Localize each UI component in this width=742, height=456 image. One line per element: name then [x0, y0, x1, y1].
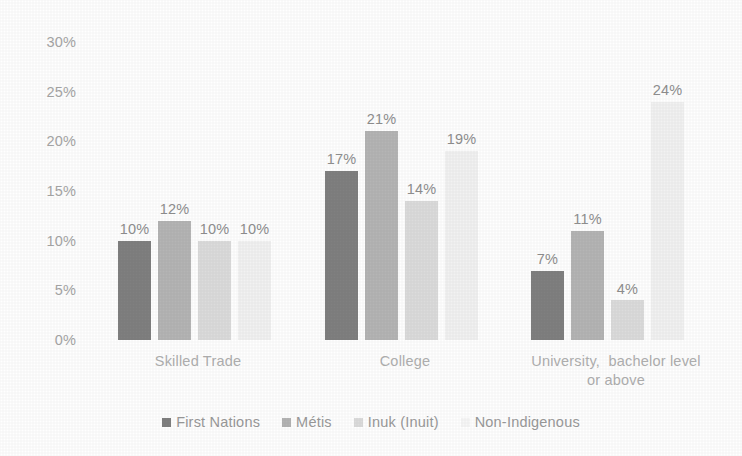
- bar-group-college: 17% 21% 14% 19%: [325, 42, 485, 340]
- legend-swatch-icon-metis: [282, 418, 291, 427]
- bar-rect-first-nations: [325, 171, 358, 340]
- bar-rect-metis: [365, 131, 398, 340]
- bar-rect-first-nations: [118, 241, 151, 340]
- category-label-university-line1: University, bachelor level: [531, 353, 701, 369]
- bar-college-metis[interactable]: 21%: [365, 42, 398, 340]
- y-tick-label-25: 25%: [46, 84, 76, 100]
- bar-label-college-first-nations: 17%: [327, 151, 357, 167]
- bar-skilled-trade-first-nations[interactable]: 10%: [118, 42, 151, 340]
- bar-skilled-trade-metis[interactable]: 12%: [158, 42, 191, 340]
- bar-label-skilled-trade-inuk: 10%: [200, 221, 230, 237]
- bar-label-college-non-indigenous: 19%: [447, 131, 477, 147]
- bar-university-non-indigenous[interactable]: 24%: [651, 42, 684, 340]
- y-tick-label-10: 10%: [46, 233, 76, 249]
- bar-university-metis[interactable]: 11%: [571, 42, 604, 340]
- category-label-university-line2: or above: [587, 372, 645, 388]
- grouped-bar-chart: 30% 25% 20% 15% 10% 5% 0% 10% 12% 10%: [0, 0, 742, 456]
- chart-legend: First Nations Métis Inuk (Inuit) Non-Ind…: [0, 414, 742, 430]
- bar-university-first-nations[interactable]: 7%: [531, 42, 564, 340]
- legend-swatch-icon-first-nations: [162, 418, 171, 427]
- bar-rect-inuk: [611, 300, 644, 340]
- legend-swatch-icon-inuk: [354, 418, 363, 427]
- bar-college-non-indigenous[interactable]: 19%: [445, 42, 478, 340]
- bar-label-skilled-trade-first-nations: 10%: [120, 221, 150, 237]
- legend-label-non-indigenous: Non-Indigenous: [475, 414, 580, 430]
- y-tick-label-5: 5%: [55, 282, 76, 298]
- category-label-university: University, bachelor levelor above: [501, 352, 731, 390]
- bar-rect-metis: [158, 221, 191, 340]
- bar-rect-non-indigenous: [238, 241, 271, 340]
- legend-item-non-indigenous[interactable]: Non-Indigenous: [461, 414, 580, 430]
- bar-label-college-metis: 21%: [367, 111, 397, 127]
- legend-item-metis[interactable]: Métis: [282, 414, 332, 430]
- bar-rect-non-indigenous: [651, 102, 684, 340]
- legend-label-first-nations: First Nations: [176, 414, 260, 430]
- bar-label-skilled-trade-metis: 12%: [160, 201, 190, 217]
- bar-label-university-non-indigenous: 24%: [653, 82, 683, 98]
- bar-label-university-first-nations: 7%: [537, 251, 558, 267]
- bar-university-inuk[interactable]: 4%: [611, 42, 644, 340]
- bar-rect-metis: [571, 231, 604, 340]
- bar-label-university-inuk: 4%: [617, 281, 638, 297]
- bar-rect-non-indigenous: [445, 151, 478, 340]
- bar-label-skilled-trade-non-indigenous: 10%: [240, 221, 270, 237]
- category-label-skilled-trade: Skilled Trade: [118, 352, 278, 371]
- bar-group-university: 7% 11% 4% 24%: [531, 42, 691, 340]
- bar-group-skilled-trade: 10% 12% 10% 10%: [118, 42, 278, 340]
- y-tick-label-30: 30%: [46, 34, 76, 50]
- plot-area: 10% 12% 10% 10%: [88, 42, 718, 340]
- category-label-college: College: [325, 352, 485, 371]
- legend-item-inuk[interactable]: Inuk (Inuit): [354, 414, 439, 430]
- bar-label-university-metis: 11%: [573, 211, 602, 227]
- bar-rect-inuk: [405, 201, 438, 340]
- bar-rect-inuk: [198, 241, 231, 340]
- legend-label-metis: Métis: [296, 414, 332, 430]
- legend-swatch-icon-non-indigenous: [461, 418, 470, 427]
- bar-college-first-nations[interactable]: 17%: [325, 42, 358, 340]
- bar-skilled-trade-inuk[interactable]: 10%: [198, 42, 231, 340]
- legend-item-first-nations[interactable]: First Nations: [162, 414, 260, 430]
- y-tick-label-15: 15%: [46, 183, 76, 199]
- legend-label-inuk: Inuk (Inuit): [368, 414, 439, 430]
- bar-label-college-inuk: 14%: [407, 181, 437, 197]
- bar-rect-first-nations: [531, 271, 564, 341]
- y-tick-label-20: 20%: [46, 133, 76, 149]
- y-tick-label-0: 0%: [55, 332, 76, 348]
- bar-skilled-trade-non-indigenous[interactable]: 10%: [238, 42, 271, 340]
- y-axis: 30% 25% 20% 15% 10% 5% 0%: [0, 0, 88, 456]
- bar-college-inuk[interactable]: 14%: [405, 42, 438, 340]
